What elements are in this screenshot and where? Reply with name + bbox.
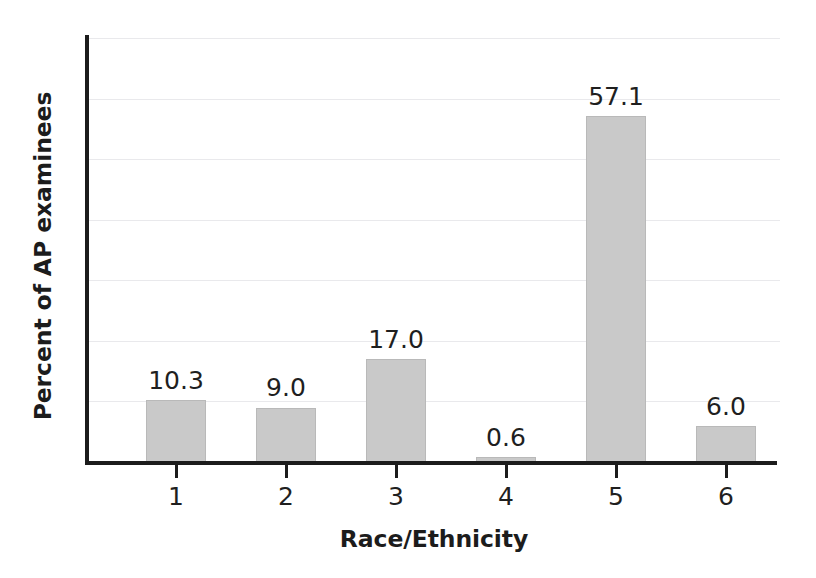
x-tick-mark (285, 465, 288, 478)
x-axis-line (85, 461, 777, 465)
x-tick-mark (615, 465, 618, 478)
x-tick-label: 1 (146, 484, 206, 509)
gridline (88, 220, 780, 221)
x-tick-mark (395, 465, 398, 478)
bar-value-label: 17.0 (351, 327, 441, 352)
plot-area (88, 38, 780, 462)
y-axis-line (85, 35, 89, 465)
x-tick-label: 5 (586, 484, 646, 509)
gridline (88, 280, 780, 281)
bar (696, 426, 756, 462)
bar (256, 408, 316, 463)
x-tick-mark (725, 465, 728, 478)
gridline (88, 159, 780, 160)
x-tick-label: 4 (476, 484, 536, 509)
x-tick-label: 6 (696, 484, 756, 509)
bar-value-label: 57.1 (571, 84, 661, 109)
bar (586, 116, 646, 462)
bar (366, 359, 426, 462)
bar-value-label: 0.6 (461, 425, 551, 450)
bar (146, 400, 206, 462)
bar-chart: Percent of AP examinees 10.319.0217.030.… (0, 0, 816, 578)
bar-value-label: 9.0 (241, 375, 331, 400)
x-tick-mark (175, 465, 178, 478)
bar-value-label: 10.3 (131, 368, 221, 393)
y-axis-title: Percent of AP examinees (26, 36, 60, 476)
x-tick-label: 2 (256, 484, 316, 509)
bar-value-label: 6.0 (681, 394, 771, 419)
x-axis-title: Race/Ethnicity (88, 527, 780, 553)
gridline (88, 99, 780, 100)
x-tick-label: 3 (366, 484, 426, 509)
x-tick-mark (505, 465, 508, 478)
gridline (88, 38, 780, 39)
